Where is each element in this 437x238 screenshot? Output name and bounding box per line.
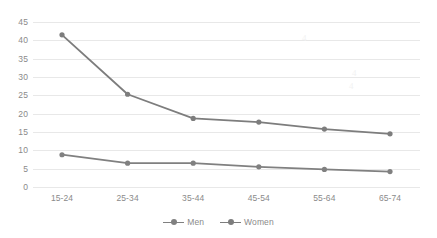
data-point-marker (125, 161, 130, 166)
scan-artifact-2: 4 (352, 68, 357, 78)
line-chart: 051015202530354045 15-2425-3435-4445-545… (0, 0, 437, 238)
legend-symbol-icon (163, 218, 184, 227)
data-point-marker (59, 32, 64, 37)
data-point-marker (256, 120, 261, 125)
legend-label: Women (244, 218, 274, 227)
legend-item-women[interactable]: Women (220, 218, 274, 227)
data-point-marker (59, 152, 64, 157)
data-point-marker (191, 116, 196, 121)
data-point-marker (125, 92, 130, 97)
data-point-marker (322, 167, 327, 172)
data-point-marker (191, 161, 196, 166)
scan-artifact-1: 4 (302, 33, 307, 43)
data-point-marker (387, 169, 392, 174)
series-line (62, 35, 390, 134)
legend-symbol-icon (220, 218, 241, 227)
series-men (59, 152, 392, 174)
chart-legend: MenWomen (0, 214, 437, 230)
series-line (62, 155, 390, 172)
legend-marker-icon (171, 219, 177, 225)
data-point-marker (387, 131, 392, 136)
legend-item-men[interactable]: Men (163, 218, 204, 227)
scan-artifact-3: 4 (349, 81, 354, 91)
legend-marker-icon (228, 219, 234, 225)
series-layer (0, 0, 437, 238)
data-point-marker (256, 164, 261, 169)
legend-label: Men (187, 218, 204, 227)
series-women (59, 32, 392, 136)
data-point-marker (322, 126, 327, 131)
